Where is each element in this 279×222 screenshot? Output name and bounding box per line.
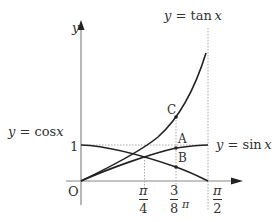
- point-c-label: C: [167, 104, 176, 116]
- tick-pi-over-2-num: π: [213, 184, 222, 197]
- sin-label-prefix: y =: [216, 137, 243, 152]
- point-b-label: B: [178, 152, 187, 164]
- y-axis-label: y: [72, 21, 79, 34]
- tan-label-var: x: [214, 8, 221, 23]
- x-axis-arrow-icon: [231, 178, 243, 185]
- tan-curve: [81, 53, 206, 181]
- point-b-marker: [174, 165, 178, 169]
- cos-label-prefix: y =: [8, 124, 35, 139]
- point-a-label: A: [178, 133, 187, 145]
- tick-pi-over-2-den: 2: [213, 202, 221, 215]
- sin-label-var: x: [264, 137, 271, 152]
- tick-pi-over-4-den: 4: [139, 202, 147, 215]
- tick-pi-over-4: π 4: [139, 184, 148, 215]
- sin-curve-label: y = sin x: [216, 138, 272, 151]
- cos-curve-label: y = cosx: [8, 125, 64, 138]
- tick-3pi-over-8-suffix: π: [182, 199, 189, 210]
- tick-3pi-over-8-num: 3: [170, 184, 178, 197]
- tick-pi-over-4-num: π: [139, 184, 148, 197]
- cos-label-var: x: [56, 124, 63, 139]
- tan-curve-label: y = tan x: [164, 9, 222, 22]
- tick-pi-over-2: π 2: [213, 184, 222, 215]
- tan-label-prefix: y =: [164, 8, 191, 23]
- origin-label: O: [68, 185, 79, 198]
- tan-label-fn: tan: [191, 8, 212, 23]
- cos-label-fn: cos: [35, 124, 57, 139]
- y-one-label: 1: [70, 140, 78, 153]
- sin-label-fn: sin: [243, 137, 262, 152]
- point-a-marker: [174, 146, 178, 150]
- tick-3pi-over-8: 3 8: [170, 184, 178, 215]
- tick-3pi-over-8-den: 8: [170, 202, 178, 215]
